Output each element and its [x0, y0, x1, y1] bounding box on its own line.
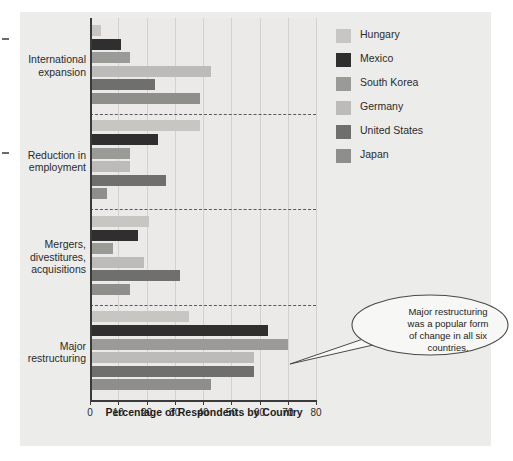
x-tick	[316, 400, 317, 405]
bar	[90, 284, 130, 295]
legend-swatch	[336, 149, 351, 163]
legend-label: South Korea	[360, 76, 418, 88]
bar	[90, 270, 180, 281]
category-label: Majorrestructuring	[0, 340, 86, 365]
legend-swatch	[336, 101, 351, 115]
category-label-line: Reduction in	[0, 149, 86, 162]
bar	[90, 325, 268, 336]
legend-label: Mexico	[360, 52, 393, 64]
legend-item[interactable]: United States	[336, 122, 456, 146]
legend-item[interactable]: Mexico	[336, 50, 456, 74]
bar	[90, 120, 200, 131]
category-label: Internationalexpansion	[0, 53, 86, 78]
legend-item[interactable]: South Korea	[336, 74, 456, 98]
bar-group	[90, 18, 316, 114]
legend-label: Hungary	[360, 28, 400, 40]
bar-group	[90, 209, 316, 305]
callout-text: Major restructuring was a popular form o…	[392, 306, 504, 354]
bar	[90, 25, 101, 36]
y-axis-line	[90, 18, 92, 400]
bar	[90, 379, 211, 390]
legend-swatch	[336, 77, 351, 91]
bar	[90, 79, 155, 90]
x-tick	[175, 400, 176, 405]
plot-area: 01020304050607080	[90, 18, 316, 400]
category-label-line: acquisitions	[0, 263, 86, 276]
bar	[90, 257, 144, 268]
legend-item[interactable]: Hungary	[336, 26, 456, 50]
category-label-line: Mergers,	[0, 238, 86, 251]
legend-label: Germany	[360, 100, 403, 112]
category-label-line: Major	[0, 340, 86, 353]
legend-item[interactable]: Germany	[336, 98, 456, 122]
legend: HungaryMexicoSouth KoreaGermanyUnited St…	[336, 26, 456, 170]
category-label-line: International	[0, 53, 86, 66]
callout-line-4: countries.	[392, 342, 504, 354]
bar	[90, 161, 130, 172]
x-axis-title: Percentage of Respondents by Country	[62, 406, 346, 418]
callout-line-1: Major restructuring	[392, 306, 504, 318]
x-tick	[203, 400, 204, 405]
x-tick	[260, 400, 261, 405]
bar	[90, 366, 254, 377]
bar	[90, 175, 166, 186]
category-label-line: expansion	[0, 66, 86, 79]
legend-swatch	[336, 125, 351, 139]
bar	[90, 93, 200, 104]
bar	[90, 230, 138, 241]
bar-group	[90, 114, 316, 210]
bar	[90, 66, 211, 77]
x-tick	[288, 400, 289, 405]
category-label-line: employment	[0, 161, 86, 174]
legend-item[interactable]: Japan	[336, 146, 456, 170]
bar-group	[90, 305, 316, 401]
callout-line-3: of change in all six	[392, 330, 504, 342]
bar	[90, 134, 158, 145]
legend-swatch	[336, 29, 351, 43]
bar	[90, 188, 107, 199]
category-label-line: restructuring	[0, 352, 86, 365]
bar	[90, 216, 149, 227]
bar	[90, 311, 189, 322]
bar	[90, 352, 254, 363]
bar	[90, 39, 121, 50]
legend-swatch	[336, 53, 351, 67]
x-tick	[231, 400, 232, 405]
x-tick	[147, 400, 148, 405]
legend-label: Japan	[360, 148, 389, 160]
bar	[90, 52, 130, 63]
callout-line-2: was a popular form	[392, 318, 504, 330]
category-label: Reduction inemployment	[0, 149, 86, 174]
bar	[90, 148, 130, 159]
bar	[90, 339, 288, 350]
x-tick	[90, 400, 91, 405]
category-axis-labels: InternationalexpansionReduction inemploy…	[0, 18, 86, 400]
legend-label: United States	[360, 124, 423, 136]
bar	[90, 243, 113, 254]
category-label-line: divestitures,	[0, 251, 86, 264]
x-tick	[118, 400, 119, 405]
category-label: Mergers,divestitures,acquisitions	[0, 238, 86, 276]
figure-container: InternationalexpansionReduction inemploy…	[0, 0, 513, 461]
